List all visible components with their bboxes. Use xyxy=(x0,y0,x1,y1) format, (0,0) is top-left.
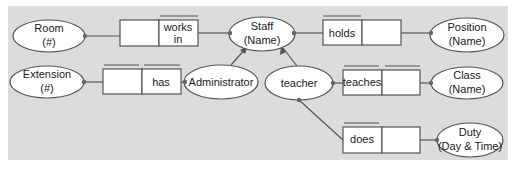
role-box[interactable] xyxy=(362,20,401,45)
entity-ref: (#) xyxy=(42,36,55,48)
entity-staff[interactable]: Staff (Name) xyxy=(229,17,295,51)
entity-class[interactable]: Class (Name) xyxy=(431,67,503,99)
role-box[interactable] xyxy=(120,20,159,46)
dot-icon xyxy=(83,34,87,38)
fact-label: has xyxy=(152,76,170,88)
dot-icon xyxy=(297,98,301,102)
role-box[interactable] xyxy=(382,127,420,153)
entity-extension[interactable]: Extension (#) xyxy=(10,66,84,98)
dot-icon xyxy=(331,81,335,85)
entity-administrator[interactable]: Administrator xyxy=(184,65,258,99)
dot-icon xyxy=(183,80,187,84)
fact-has[interactable]: has xyxy=(103,65,181,94)
fact-works-in[interactable]: works in xyxy=(120,16,198,46)
entity-ref: (Name) xyxy=(244,34,281,46)
dot-icon xyxy=(292,31,296,35)
dot-icon xyxy=(435,138,439,142)
orm-diagram: Room (#) works in Staff (Name) holds Pos… xyxy=(0,0,514,170)
fact-holds[interactable]: holds xyxy=(323,16,401,45)
entity-label: teacher xyxy=(281,77,318,89)
entity-label: Administrator xyxy=(189,76,254,88)
entity-label: Duty xyxy=(459,126,482,138)
dot-icon xyxy=(429,81,433,85)
fact-label: in xyxy=(174,33,183,45)
entity-label: Extension xyxy=(23,68,71,80)
fact-label: holds xyxy=(329,27,356,39)
fact-teaches[interactable]: teaches xyxy=(343,66,420,95)
role-box[interactable] xyxy=(103,69,142,94)
fact-label: works xyxy=(163,21,193,33)
dot-icon xyxy=(429,31,433,35)
entity-teacher[interactable]: teacher xyxy=(265,66,333,100)
role-box[interactable] xyxy=(382,70,420,95)
entity-room[interactable]: Room (#) xyxy=(13,20,85,52)
entity-label: Position xyxy=(447,21,486,33)
entity-duty[interactable]: Duty (Day & Time) xyxy=(437,123,503,157)
entity-label: Room xyxy=(34,22,63,34)
entity-ref: (#) xyxy=(40,82,53,94)
entity-label: Staff xyxy=(251,20,274,32)
fact-does[interactable]: does xyxy=(343,123,420,153)
entity-position[interactable]: Position (Name) xyxy=(430,18,504,52)
dot-icon xyxy=(82,80,86,84)
fact-label: teaches xyxy=(343,76,382,88)
fact-label: does xyxy=(350,133,374,145)
entity-ref: (Name) xyxy=(449,35,486,47)
entity-ref: (Name) xyxy=(449,83,486,95)
entity-label: Class xyxy=(453,69,481,81)
entity-ref: (Day & Time) xyxy=(438,140,502,152)
dot-icon xyxy=(228,31,232,35)
